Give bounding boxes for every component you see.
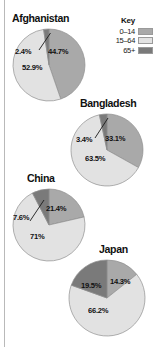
pie-chart-china xyxy=(8,187,92,263)
pie-chart-japan xyxy=(64,258,150,338)
pie-label-japan-15-64: 66.2% xyxy=(88,306,108,315)
pie-svg-china xyxy=(8,187,92,263)
chart-title-bangladesh: Bangladesh xyxy=(80,97,136,109)
legend-label-15-64: 15–64 xyxy=(116,37,135,44)
pie-label-afghanistan-65-plus: 2.4% xyxy=(15,47,31,56)
age-structure-pie-chart-figure: Key 0–14 15–64 65+ Afghanistan 44.7% 52.… xyxy=(0,0,153,347)
pie-label-china-0-14: 21.4% xyxy=(46,204,66,213)
legend-label-65-plus: 65+ xyxy=(123,47,135,54)
legend-item-15-64: 15–64 xyxy=(104,37,153,44)
pie-slices-bangladesh xyxy=(71,114,143,186)
pie-chart-bangladesh xyxy=(66,112,150,188)
legend-title: Key xyxy=(104,16,153,25)
pie-label-bangladesh-0-14: 33.1% xyxy=(105,134,125,143)
pie-svg-japan xyxy=(64,258,150,338)
pie-label-bangladesh-15-64: 63.5% xyxy=(85,154,105,163)
legend-item-65-plus: 65+ xyxy=(104,47,153,54)
pie-label-china-15-64: 71% xyxy=(30,232,44,241)
legend-key: Key 0–14 15–64 65+ xyxy=(104,16,153,54)
chart-title-china: China xyxy=(27,172,55,184)
pie-slices-japan xyxy=(69,260,145,336)
legend-item-0-14: 0–14 xyxy=(104,28,153,35)
legend-swatch-65-plus xyxy=(138,47,153,54)
pie-slices-china xyxy=(13,189,85,261)
left-margin-rule xyxy=(4,0,5,347)
pie-label-japan-0-14: 14.3% xyxy=(110,277,130,286)
pie-svg-afghanistan xyxy=(8,27,92,103)
pie-label-afghanistan-0-14: 44.7% xyxy=(48,47,68,56)
pie-label-china-65-plus: 7.6% xyxy=(13,213,29,222)
chart-title-afghanistan: Afghanistan xyxy=(12,12,69,24)
pie-svg-bangladesh xyxy=(66,112,150,188)
legend-swatch-15-64 xyxy=(138,37,153,44)
pie-label-bangladesh-65-plus: 3.4% xyxy=(76,135,92,144)
pie-label-afghanistan-15-64: 52.9% xyxy=(22,63,42,72)
legend-swatch-0-14 xyxy=(138,28,153,35)
legend-label-0-14: 0–14 xyxy=(120,28,136,35)
pie-chart-afghanistan xyxy=(8,27,92,103)
chart-title-japan: Japan xyxy=(99,243,128,255)
pie-label-japan-65-plus: 19.5% xyxy=(81,281,101,290)
